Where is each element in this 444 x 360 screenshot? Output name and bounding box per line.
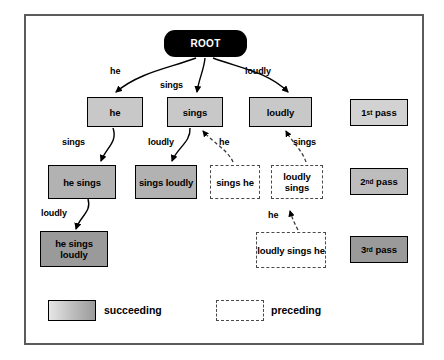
node-he[interactable]: he	[87, 97, 143, 127]
pass-box-1[interactable]: 1st pass	[350, 99, 408, 126]
edge-label-hesings-hesingsloudly: loudly	[41, 208, 67, 218]
pass-3-label: pass	[375, 244, 397, 255]
pass-1-label: pass	[375, 107, 397, 118]
edge-label-text: sings	[160, 80, 183, 90]
edge-label-text: loudly	[148, 137, 174, 147]
node-he-sings[interactable]: he sings	[48, 165, 116, 199]
pass-box-3[interactable]: 3rd pass	[350, 236, 408, 263]
edge-label-text: loudly	[41, 208, 67, 218]
node-sings-he-label: sings he	[216, 177, 254, 188]
edge-label-sings-singsloudly: loudly	[148, 137, 174, 147]
node-root-label: ROOT	[190, 38, 220, 49]
edge-label-root-he: he	[110, 66, 120, 76]
node-sings[interactable]: sings	[167, 97, 223, 127]
edge-label-loudlysings-loudly: sings	[293, 137, 316, 147]
node-he-sings-loudly-label: he sings loudly	[41, 238, 107, 260]
pass-3-suffix: rd	[366, 246, 373, 253]
edge-label-text: sings	[62, 137, 85, 147]
edge-label-text: he	[268, 210, 278, 220]
node-loudly-sings[interactable]: loudly sings	[271, 165, 323, 199]
legend-label-succeeding: succeeding	[104, 304, 162, 316]
node-sings-loudly-label: sings loudly	[139, 177, 193, 188]
pass-2-label: pass	[376, 176, 398, 187]
pass-box-2[interactable]: 2nd pass	[350, 168, 408, 195]
edge-label-loudlysingshe-loudlysings: he	[268, 210, 278, 220]
edge-label-text: he	[110, 66, 120, 76]
legend-swatch-preceding	[216, 300, 264, 321]
node-sings-label: sings	[183, 107, 207, 118]
edge-label-singshe-sings: he	[219, 137, 229, 147]
node-loudly-sings-he[interactable]: loudly sings he	[256, 232, 326, 268]
node-he-sings-label: he sings	[63, 177, 101, 188]
node-loudly-sings-label: loudly sings	[272, 171, 322, 193]
node-loudly[interactable]: loudly	[249, 97, 312, 127]
node-root[interactable]: ROOT	[164, 30, 247, 57]
node-sings-he[interactable]: sings he	[210, 165, 260, 199]
edge-label-root-loudly: loudly	[245, 66, 271, 76]
legend-preceding-text: preceding	[271, 304, 321, 316]
edge-label-root-sings: sings	[160, 80, 183, 90]
legend-label-preceding: preceding	[271, 304, 321, 316]
edge-label-he-hesings: sings	[62, 137, 85, 147]
node-loudly-sings-he-label: loudly sings he	[257, 245, 325, 256]
node-loudly-label: loudly	[267, 107, 294, 118]
legend-swatch-succeeding	[48, 300, 96, 321]
node-sings-loudly[interactable]: sings loudly	[135, 165, 197, 199]
node-he-sings-loudly[interactable]: he sings loudly	[40, 231, 108, 267]
edge-label-text: he	[219, 137, 229, 147]
edge-label-text: loudly	[245, 66, 271, 76]
node-he-label: he	[110, 107, 121, 118]
legend-succeeding-text: succeeding	[104, 304, 162, 316]
pass-2-suffix: nd	[366, 178, 374, 185]
edge-label-text: sings	[293, 137, 316, 147]
diagram-canvas: ROOT he sings loudly he sings sings loud…	[0, 0, 444, 360]
pass-1-suffix: st	[367, 109, 373, 116]
